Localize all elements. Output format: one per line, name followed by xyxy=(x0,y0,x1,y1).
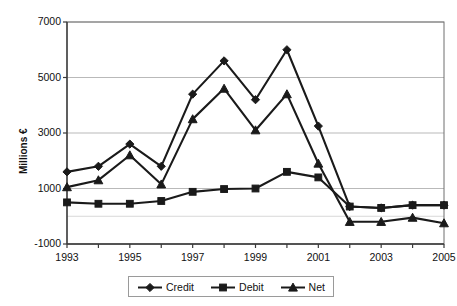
data-point-marker xyxy=(95,200,102,207)
data-point-marker xyxy=(252,185,259,192)
y-tick-label: 5000 xyxy=(15,71,61,83)
legend-item-debit[interactable]: Debit xyxy=(210,281,264,293)
x-tick-label: 1995 xyxy=(108,251,152,263)
diamond-marker-icon xyxy=(137,282,163,292)
data-point-marker xyxy=(146,283,154,291)
data-point-marker xyxy=(441,202,448,209)
y-tick-label: -1000 xyxy=(15,237,61,249)
chart-legend: CreditDebitNet xyxy=(128,276,334,297)
data-point-marker xyxy=(64,199,71,206)
x-tick-label: 2001 xyxy=(296,251,340,263)
x-tick-label: 2003 xyxy=(359,251,403,263)
y-tick-label: 1000 xyxy=(15,182,61,194)
square-marker-icon xyxy=(210,282,236,292)
x-tick-label: 1997 xyxy=(171,251,215,263)
data-point-marker xyxy=(378,205,385,212)
data-point-marker xyxy=(221,186,228,193)
line-chart: Millions € -10001000300050007000 1993199… xyxy=(0,0,457,306)
data-point-marker xyxy=(315,174,322,181)
y-tick-label: 3000 xyxy=(15,126,61,138)
data-point-marker xyxy=(346,203,353,210)
data-point-marker xyxy=(409,202,416,209)
x-tick-label: 1993 xyxy=(45,251,89,263)
legend-item-net[interactable]: Net xyxy=(280,281,325,293)
legend-label: Credit xyxy=(166,281,194,293)
data-point-marker xyxy=(189,188,196,195)
x-tick-label: 1999 xyxy=(234,251,278,263)
data-point-marker xyxy=(284,168,291,175)
data-point-marker xyxy=(126,200,133,207)
data-point-marker xyxy=(158,198,165,205)
triangle-marker-icon xyxy=(280,282,306,292)
legend-label: Net xyxy=(309,281,325,293)
x-tick-label: 2005 xyxy=(422,251,457,263)
legend-item-credit[interactable]: Credit xyxy=(137,281,194,293)
data-point-marker xyxy=(220,284,227,291)
y-tick-label: 7000 xyxy=(15,15,61,27)
legend-label: Debit xyxy=(239,281,264,293)
